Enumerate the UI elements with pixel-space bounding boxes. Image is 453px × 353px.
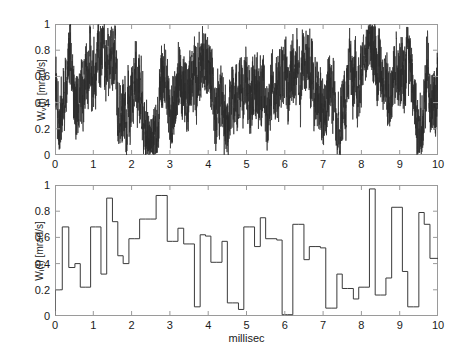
x-tick-label: 3 bbox=[167, 159, 173, 170]
y-tick-label: 1 bbox=[44, 19, 50, 30]
step-polyline bbox=[55, 189, 438, 316]
x-tick-label: 1 bbox=[90, 320, 96, 331]
chart-panel-bottom: 00.20.40.60.81 012345678910 Wi(t) [mrad/… bbox=[55, 185, 438, 316]
x-tick-label: 10 bbox=[432, 159, 444, 170]
x-tick-label: 10 bbox=[432, 320, 444, 331]
y-tick-label: 0 bbox=[44, 311, 50, 322]
x-tick-label: 9 bbox=[397, 159, 403, 170]
y-axis-label-bottom-rest: (t) [mrad/s] bbox=[34, 221, 45, 269]
x-tick-label: 1 bbox=[90, 159, 96, 170]
chart-panel-top: 00.20.40.60.81 012345678910 Wv(t) [mrad/… bbox=[55, 24, 438, 155]
x-tick-label: 9 bbox=[397, 320, 403, 331]
x-tick-label: 0 bbox=[52, 320, 58, 331]
x-axis-label: millisec bbox=[55, 333, 438, 344]
bottom-step-trace bbox=[55, 185, 438, 316]
x-tick-label: 6 bbox=[282, 159, 288, 170]
x-tick-label: 8 bbox=[358, 159, 364, 170]
figure-canvas: 00.20.40.60.81 012345678910 Wv(t) [mrad/… bbox=[0, 0, 453, 353]
y-tick-label: 0 bbox=[44, 150, 50, 161]
x-tick-label: 0 bbox=[52, 159, 58, 170]
x-tick-label: 7 bbox=[320, 320, 326, 331]
y-axis-label-bottom: Wi(t) [mrad/s] bbox=[35, 221, 46, 280]
x-tick-label: 2 bbox=[129, 159, 135, 170]
y-tick-label: 0.2 bbox=[35, 123, 50, 134]
x-tick-label: 6 bbox=[282, 320, 288, 331]
x-tick-label: 3 bbox=[167, 320, 173, 331]
top-noise-trace bbox=[55, 24, 438, 155]
x-tick-label: 2 bbox=[129, 320, 135, 331]
noise-polyline bbox=[55, 24, 438, 155]
x-tick-label: 4 bbox=[205, 159, 211, 170]
y-tick-label: 1 bbox=[44, 180, 50, 191]
y-tick-label: 0.8 bbox=[35, 206, 50, 217]
x-tick-label: 7 bbox=[320, 159, 326, 170]
x-tick-label: 8 bbox=[358, 320, 364, 331]
y-axis-label-top-main: W bbox=[36, 111, 47, 120]
x-tick-label: 5 bbox=[243, 159, 249, 170]
y-tick-label: 0.2 bbox=[35, 284, 50, 295]
y-axis-label-bottom-main: W bbox=[34, 271, 45, 280]
x-tick-label: 5 bbox=[243, 320, 249, 331]
y-axis-label-top: Wv(t) [mrad/s] bbox=[37, 59, 48, 121]
x-tick-label: 4 bbox=[205, 320, 211, 331]
y-tick-label: 0.8 bbox=[35, 45, 50, 56]
y-axis-label-top-rest: (t) [mrad/s] bbox=[36, 59, 47, 107]
